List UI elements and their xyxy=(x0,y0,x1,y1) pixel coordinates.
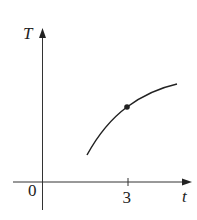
curve-T-of-t xyxy=(87,84,177,155)
tick-label-3: 3 xyxy=(123,188,132,207)
x-axis xyxy=(13,178,192,186)
y-axis-label: T xyxy=(23,24,34,43)
y-axis-arrow-icon xyxy=(39,28,46,38)
highlighted-point xyxy=(124,104,130,110)
x-axis-label: t xyxy=(182,187,188,206)
graph: T t 0 3 xyxy=(0,0,197,220)
y-axis xyxy=(39,28,46,210)
origin-label: 0 xyxy=(28,181,37,200)
x-axis-arrow-icon xyxy=(182,179,192,186)
